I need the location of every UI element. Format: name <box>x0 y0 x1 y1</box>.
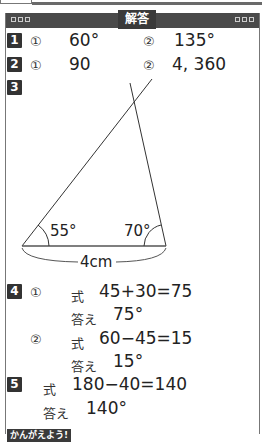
think-badge: かんがえよう! <box>7 429 71 442</box>
right-angle-label: 70° <box>124 222 151 240</box>
left-side-line <box>22 79 152 246</box>
q4-part2-formula-label: 式 <box>71 333 84 352</box>
left-angle-label: 55° <box>50 222 77 240</box>
q4-part1-answer-label: 答え <box>71 309 97 328</box>
brace-right <box>116 248 166 262</box>
q4-part1-answer: 75° <box>113 304 143 324</box>
q4-part2-marker: ② <box>30 332 42 347</box>
q5-answer: 140° <box>86 398 127 418</box>
q4-part2-answer: 15° <box>113 351 143 371</box>
q5-formula-label: 式 <box>43 379 56 398</box>
brace-left <box>22 248 78 262</box>
q4-part2-formula: 60−45=15 <box>99 328 192 348</box>
q4-part1-formula: 45+30=75 <box>99 281 192 301</box>
question-number-4: 4 <box>7 284 22 299</box>
base-length-label: 4cm <box>80 253 112 271</box>
q5-formula: 180−40=140 <box>72 374 187 394</box>
top-rule <box>32 2 262 5</box>
answer-panel: 解答 1 ① 60° ② 135° 2 ① 90 ② 4, 360 3 55° … <box>5 13 260 434</box>
top-strip <box>0 0 262 6</box>
q4-part2-answer-label: 答え <box>71 356 97 375</box>
q4-part1-formula-label: 式 <box>71 286 84 305</box>
q4-part1-marker: ① <box>30 285 42 300</box>
left-angle-arc <box>38 225 49 246</box>
top-tab <box>0 0 32 4</box>
question-number-5: 5 <box>7 377 22 392</box>
q5-answer-label: 答え <box>43 403 69 422</box>
